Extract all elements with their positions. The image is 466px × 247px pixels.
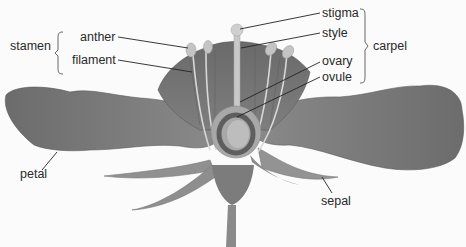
label-petal: petal (20, 168, 47, 181)
ovule (227, 120, 249, 148)
flower-illustration (0, 0, 466, 247)
label-style: style (322, 27, 348, 40)
label-sepal: sepal (321, 195, 351, 208)
anther-2 (204, 41, 213, 54)
label-anther: anther (80, 31, 115, 44)
sepal-left-1 (104, 160, 214, 178)
label-ovule: ovule (322, 71, 352, 84)
label-filament: filament (72, 54, 116, 67)
label-carpel: carpel (373, 40, 407, 53)
carpel-brace (360, 9, 368, 83)
stamen-brace (55, 32, 63, 74)
label-stigma: stigma (322, 7, 359, 20)
anther-1 (186, 43, 196, 57)
flower-diagram: stamen anther filament stigma style carp… (0, 0, 466, 247)
label-ovary: ovary (322, 55, 353, 68)
receptacle (212, 165, 254, 205)
label-stamen: stamen (10, 40, 51, 53)
stem (226, 205, 236, 247)
stigma (231, 24, 243, 36)
